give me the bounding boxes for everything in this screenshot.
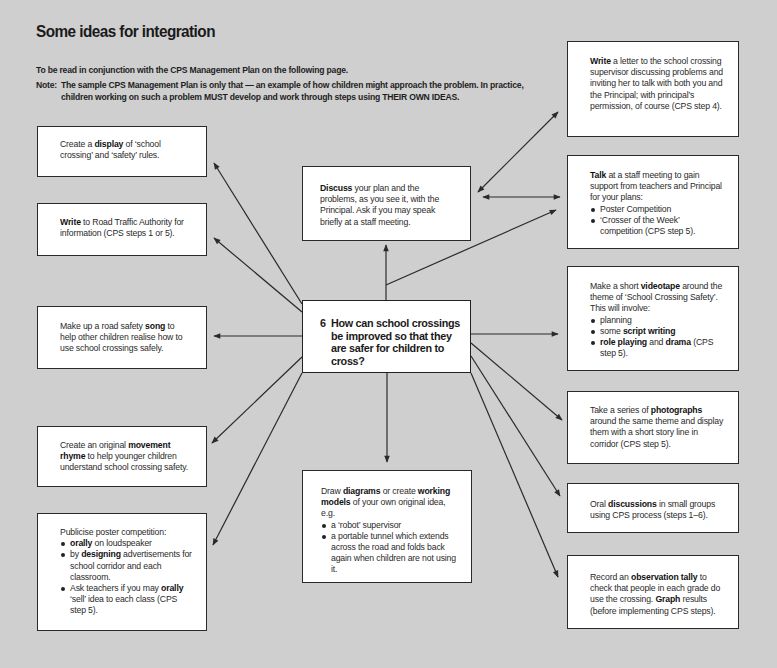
list-item: a portable tunnel which extends across t… [321,531,457,576]
arrow-to-write-rta [214,238,302,312]
list-item: ‘Crosser of the Week’ competition (CPS s… [590,215,724,237]
draw-diagrams-list: a ‘robot’ supervisor a portable tunnel w… [321,520,457,576]
list-item: planning [590,315,724,326]
idea-write-rta: Write to Road Traffic Authority for info… [37,203,207,256]
list-item: orally on loudspeaker [60,538,192,549]
list-item: a ‘robot’ supervisor [321,520,457,531]
idea-draw-diagrams: Draw diagrams or create working models o… [302,470,472,583]
idea-song: Make up a road safety song to help other… [37,306,207,369]
list-item: Poster Competition [590,204,724,215]
idea-movement-rhyme: Create an original movement rhyme to hel… [37,426,207,487]
idea-discuss: Discuss your plan and the problems, as y… [302,166,471,241]
talk-list: Poster Competition ‘Crosser of the Week’… [590,204,724,238]
arrow-to-oral-discussions [471,356,560,496]
idea-oral-discussions: Oral discussions in small groups using C… [567,483,739,533]
question-number: 6 [320,317,326,330]
idea-create-display: Create a display of ‘school crossing’ an… [37,126,207,177]
arrow-to-photographs [471,343,562,420]
arrow-discuss-write-letter [478,112,558,192]
idea-videotape: Make a short videotape around the theme … [567,266,739,371]
idea-record-tally: Record an observation tally to check tha… [567,555,739,629]
videotape-list: planning some script writing role playin… [590,315,724,360]
idea-photographs: Take a series of photographs around the … [567,391,739,464]
central-question-box: 6 How can school crossings be improved s… [302,300,471,373]
arrow-to-record-tally [471,373,558,577]
idea-write-letter: Write a letter to the school crossing su… [567,41,739,137]
idea-publicise: Publicise poster competition: orally on … [37,513,207,631]
list-item: role playing and drama (CPS step 5). [590,337,724,359]
list-item: some script writing [590,326,724,337]
idea-talk: Talk at a staff meeting to gain support … [567,155,739,249]
central-question: How can school crossings be improved so … [331,317,460,367]
list-item: by designing advertisements for school c… [60,549,192,583]
list-item: Ask teachers if you may orally ‘sell’ id… [60,583,192,617]
arrow-to-create-display [214,163,302,304]
publicise-list: orally on loudspeaker by designing adver… [60,538,192,616]
